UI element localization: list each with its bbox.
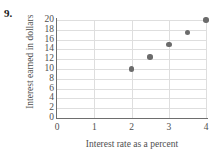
y-axis-tick-labels: 02468101214161820 [36, 20, 54, 118]
data-point [203, 17, 209, 23]
figure: 9. Interest earned in dollars Interest r… [0, 0, 220, 158]
y-tick-label: 18 [38, 25, 54, 35]
gridline-vertical [206, 20, 207, 118]
gridline-vertical [94, 20, 95, 118]
y-tick-label: 6 [38, 84, 54, 94]
x-tick-label: 4 [196, 123, 216, 133]
x-axis-line [56, 118, 208, 119]
y-tick-label: 8 [38, 74, 54, 84]
x-axis-tick-labels: 01234 [57, 123, 206, 137]
plot-area [57, 20, 206, 118]
x-axis-label: Interest rate as a percent [57, 140, 207, 150]
x-tick-label: 3 [159, 123, 179, 133]
problem-number: 9. [4, 8, 12, 19]
y-tick-label: 4 [38, 93, 54, 103]
y-tick-label: 14 [38, 44, 54, 54]
y-tick-label: 0 [38, 113, 54, 123]
y-tick-label: 10 [38, 64, 54, 74]
x-tick-label: 0 [47, 123, 67, 133]
data-point [185, 30, 191, 36]
y-tick-label: 16 [38, 35, 54, 45]
y-axis-label: Interest earned in dollars [26, 3, 36, 121]
data-point [129, 66, 135, 72]
gridline-vertical [169, 20, 170, 118]
x-tick-label: 1 [84, 123, 104, 133]
y-tick-label: 2 [38, 103, 54, 113]
data-point [166, 42, 172, 48]
data-point [147, 54, 153, 60]
y-tick-label: 12 [38, 54, 54, 64]
x-tick-label: 2 [122, 123, 142, 133]
y-tick-label: 20 [38, 15, 54, 25]
